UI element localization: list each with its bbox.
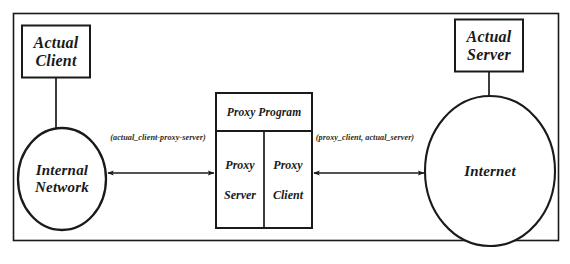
proxy-architecture-diagram: Actual Client Actual Server Internal Net… [0, 0, 570, 264]
actual-client-box [22, 26, 90, 78]
actual-server-box [455, 20, 523, 72]
diagram-canvas [0, 0, 570, 264]
internal-network-ellipse [18, 128, 106, 230]
internet-ellipse [425, 96, 555, 246]
